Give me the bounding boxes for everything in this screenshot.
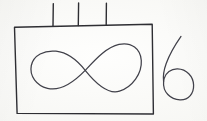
sketch-canvas (0, 0, 207, 121)
digit-six-glyph (163, 36, 193, 100)
tick-mark-group (53, 3, 106, 26)
drawing-surface (0, 0, 207, 121)
infinity-symbol (31, 44, 141, 92)
digit-six-loop (164, 69, 194, 100)
